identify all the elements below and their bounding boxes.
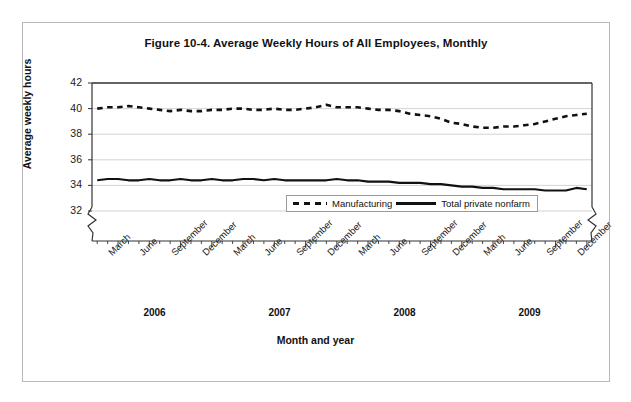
- chart-title: Figure 10-4. Average Weekly Hours of All…: [23, 37, 609, 49]
- figure-frame: Figure 10-4. Average Weekly Hours of All…: [22, 22, 610, 382]
